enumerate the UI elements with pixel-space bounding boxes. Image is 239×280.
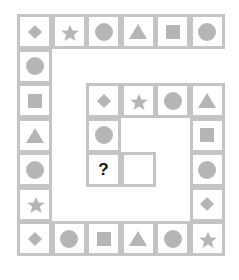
circle-icon bbox=[164, 92, 182, 110]
circle-icon bbox=[26, 57, 44, 75]
grid-cell bbox=[86, 221, 121, 256]
grid-cell bbox=[17, 152, 52, 187]
grid-cell bbox=[121, 83, 156, 118]
grid-cell bbox=[86, 14, 121, 49]
circle-icon bbox=[60, 230, 78, 248]
grid-cell bbox=[190, 152, 225, 187]
grid-cell bbox=[17, 187, 52, 222]
grid-cell bbox=[52, 14, 87, 49]
star-icon bbox=[60, 23, 78, 41]
circle-icon bbox=[198, 23, 216, 41]
star-icon bbox=[26, 195, 44, 213]
answer-cell[interactable]: ? bbox=[86, 152, 121, 187]
grid-cell bbox=[52, 221, 87, 256]
circle-icon bbox=[164, 230, 182, 248]
circle-icon bbox=[95, 23, 113, 41]
grid-cell bbox=[155, 14, 190, 49]
triangle-icon bbox=[26, 128, 44, 143]
star-icon bbox=[129, 92, 147, 110]
grid-cell bbox=[17, 221, 52, 256]
grid-cell bbox=[190, 14, 225, 49]
grid-cell bbox=[121, 14, 156, 49]
circle-icon bbox=[95, 126, 113, 144]
grid-cell bbox=[155, 83, 190, 118]
diamond-icon bbox=[27, 24, 41, 38]
grid-cell bbox=[190, 187, 225, 222]
diamond-icon bbox=[200, 197, 214, 211]
grid-cell bbox=[190, 118, 225, 153]
grid-cell bbox=[155, 221, 190, 256]
grid-cell bbox=[17, 118, 52, 153]
grid-cell bbox=[86, 83, 121, 118]
grid-cell bbox=[17, 49, 52, 84]
triangle-icon bbox=[198, 93, 216, 108]
square-icon bbox=[200, 128, 214, 142]
grid-cell bbox=[86, 118, 121, 153]
star-icon bbox=[198, 230, 216, 248]
grid-cell bbox=[121, 221, 156, 256]
triangle-icon bbox=[129, 24, 147, 39]
grid-cell bbox=[17, 83, 52, 118]
grid-cell[interactable] bbox=[121, 152, 156, 187]
square-icon bbox=[97, 232, 111, 246]
circle-icon bbox=[26, 161, 44, 179]
triangle-icon bbox=[129, 231, 147, 246]
diamond-icon bbox=[27, 231, 41, 245]
square-icon bbox=[166, 25, 180, 39]
grid-cell bbox=[17, 14, 52, 49]
square-icon bbox=[28, 94, 42, 108]
question-mark: ? bbox=[98, 160, 108, 180]
diamond-icon bbox=[96, 93, 110, 107]
grid-cell bbox=[190, 221, 225, 256]
grid-cell bbox=[190, 83, 225, 118]
circle-icon bbox=[198, 161, 216, 179]
